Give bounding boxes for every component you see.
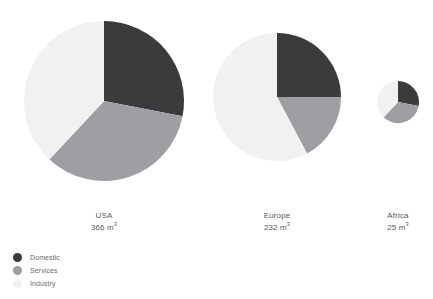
pie-slice-europe-domestic[interactable] [277, 33, 341, 97]
pie-label-europe-name: Europe [217, 210, 337, 222]
legend-label: Services [30, 267, 58, 274]
legend-swatch-domestic-icon [13, 253, 22, 262]
pie-label-africa-value: 25 m3 [338, 222, 433, 234]
legend-label: Industry [30, 280, 56, 287]
pie-slice-africa-domestic[interactable] [398, 81, 419, 106]
pie-group-usa [23, 20, 185, 182]
pie-group-africa [376, 80, 420, 124]
pie-chart-figure: USA 366 m3 Europe 232 m3 Africa 25 m3 Do… [0, 0, 433, 299]
legend-label: Domestic [30, 254, 60, 261]
pie-label-europe-value: 232 m3 [217, 222, 337, 234]
pie-label-usa-name: USA [44, 210, 164, 222]
chart-legend: DomesticServicesIndustry [13, 251, 60, 290]
pie-label-usa: USA 366 m3 [44, 210, 164, 233]
legend-item-domestic[interactable]: Domestic [13, 251, 60, 264]
pie-label-europe: Europe 232 m3 [217, 210, 337, 233]
pie-label-africa: Africa 25 m3 [338, 210, 433, 233]
legend-swatch-services-icon [13, 266, 22, 275]
pie-svg-europe [212, 32, 342, 162]
legend-item-services[interactable]: Services [13, 264, 60, 277]
legend-item-industry[interactable]: Industry [13, 277, 60, 290]
pie-label-usa-value: 366 m3 [44, 222, 164, 234]
pie-group-europe [212, 32, 342, 162]
pie-slice-usa-domestic[interactable] [104, 21, 184, 116]
pie-svg-usa [23, 20, 185, 182]
pie-label-africa-name: Africa [338, 210, 433, 222]
pie-svg-africa [376, 80, 420, 124]
legend-swatch-industry-icon [13, 279, 22, 288]
